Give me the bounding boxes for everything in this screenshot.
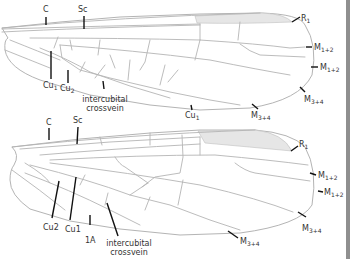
lower-label-m12-b: M1+2 xyxy=(324,188,344,197)
lower-label-sc: Sc xyxy=(73,116,82,125)
lower-label-cu2: Cu2 xyxy=(43,223,59,232)
lower-label-m34-a: M3+4 xyxy=(302,224,322,233)
lower-label-m34-b: M3+4 xyxy=(240,237,260,246)
upper-label-m34-a: M3+4 xyxy=(304,95,324,104)
upper-label-cu2: Cu2 xyxy=(60,84,74,93)
upper-label-m34-b: M3+4 xyxy=(251,111,271,120)
upper-label-cu1-b: Cu1 xyxy=(185,111,199,120)
upper-label-r1: R1 xyxy=(301,14,310,23)
upper-label-cu1-a: Cu1 xyxy=(43,81,57,90)
upper-label-m12-a: M1+2 xyxy=(314,43,334,52)
lower-label-m12-a: M1+2 xyxy=(318,171,338,180)
upper-label-intercubital-crossvein: intercubital crossvein xyxy=(80,95,130,113)
lower-label-1a: 1A xyxy=(85,236,96,245)
lower-wing-diagram xyxy=(0,125,350,259)
upper-label-m12-b: M1+2 xyxy=(320,63,340,72)
wing-venation-figure: C Sc R1 M1+2 M1+2 M3+4 M3+4 Cu1 Cu1 Cu2 … xyxy=(0,0,350,259)
lower-label-intercubital-crossvein: intercubital crossvein xyxy=(104,239,154,257)
upper-label-c: C xyxy=(43,5,49,14)
right-edge-strip xyxy=(346,0,350,259)
lower-label-r1: R1 xyxy=(299,140,308,149)
upper-label-sc: Sc xyxy=(78,5,87,14)
lower-label-cu1: Cu1 xyxy=(65,225,81,234)
lower-label-c: C xyxy=(46,118,52,127)
upper-wing-diagram xyxy=(0,0,350,130)
